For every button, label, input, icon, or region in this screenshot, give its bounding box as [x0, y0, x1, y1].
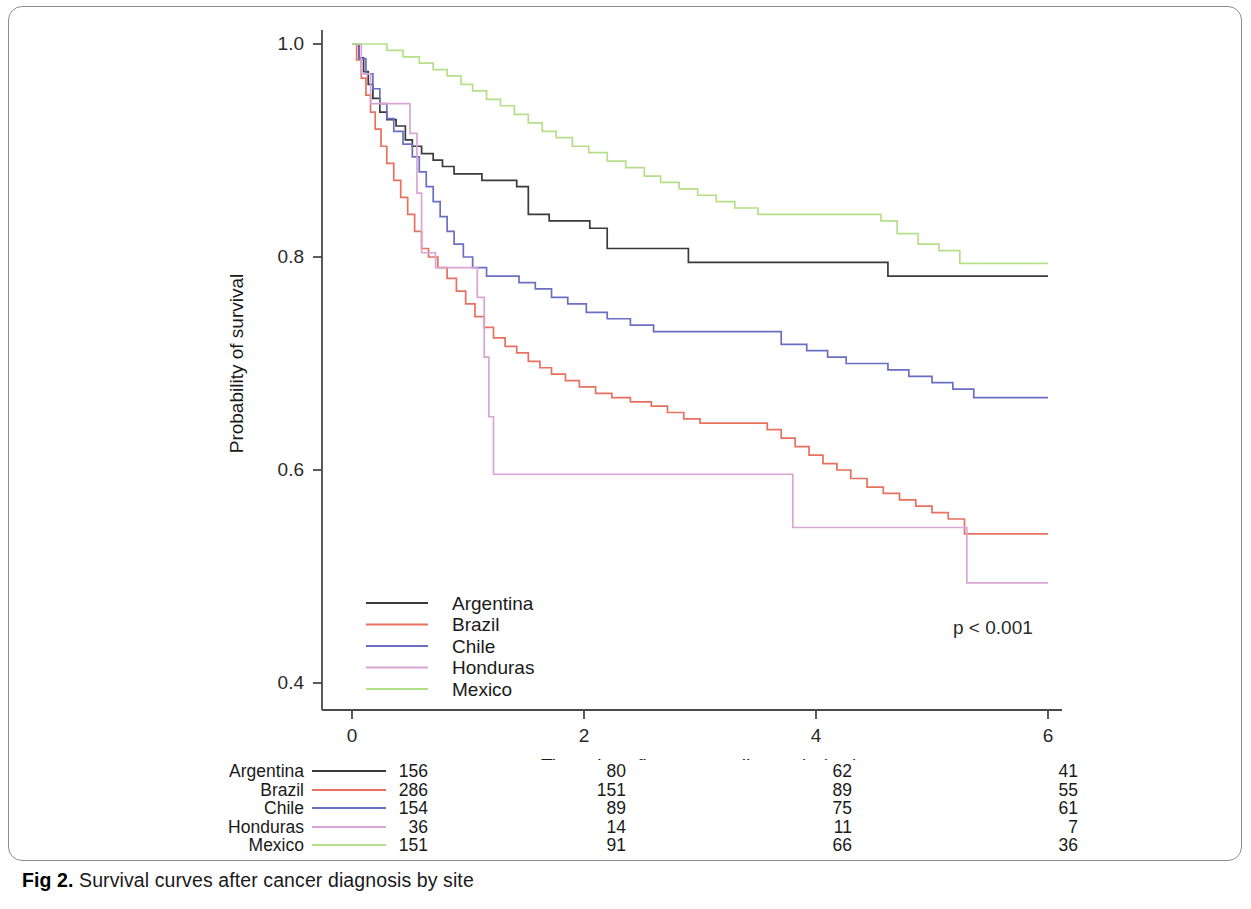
risk-count-cell: 89: [570, 799, 626, 817]
y-axis-tick-label: 0.6: [278, 459, 304, 480]
risk-row-label: Honduras: [182, 818, 304, 836]
survival-curve-chile: [352, 44, 1048, 398]
risk-count-cell: 36: [1022, 836, 1078, 854]
chart-legend: ArgentinaBrazilChileHondurasMexico: [366, 593, 534, 700]
km-chart-svg: 0.40.60.81.00246Time since first cancer …: [0, 0, 1251, 760]
survival-plot: 0.40.60.81.00246Time since first cancer …: [0, 0, 1251, 760]
risk-table-row: Mexico151916636: [0, 836, 1251, 854]
survival-curve-brazil: [352, 44, 1048, 534]
caption-label: Fig 2.: [22, 869, 74, 891]
y-axis-tick-label: 0.4: [278, 672, 305, 693]
pvalue-annotation: p < 0.001: [953, 617, 1033, 638]
survival-curve-mexico: [352, 44, 1048, 263]
survival-curve-argentina: [352, 44, 1048, 276]
risk-count-cell: 55: [1022, 781, 1078, 799]
p-value-label: p < 0.001: [953, 617, 1033, 638]
x-axis-tick-label: 4: [811, 725, 822, 746]
risk-count-cell: 61: [1022, 799, 1078, 817]
x-axis-tick-label: 2: [579, 725, 590, 746]
risk-count-cell: 75: [796, 799, 852, 817]
risk-count-cell: 14: [570, 818, 626, 836]
survival-curves: [352, 44, 1048, 583]
legend-label-chile: Chile: [452, 636, 495, 657]
risk-count-cell: 89: [796, 781, 852, 799]
caption-text: Survival curves after cancer diagnosis b…: [79, 869, 474, 891]
legend-label-mexico: Mexico: [452, 679, 512, 700]
risk-count-cell: 156: [372, 762, 428, 780]
survival-curve-honduras: [352, 44, 1048, 583]
risk-table-row: Argentina156806241: [0, 762, 1251, 780]
risk-count-cell: 151: [372, 836, 428, 854]
risk-row-label: Chile: [182, 799, 304, 817]
x-axis-title: Time since first cancer diagnosis (yrs): [541, 755, 859, 760]
risk-count-cell: 286: [372, 781, 428, 799]
numbers-at-risk-table: Argentina156806241Brazil2861518955Chile1…: [0, 762, 1251, 854]
risk-row-label: Brazil: [182, 781, 304, 799]
legend-label-argentina: Argentina: [452, 593, 534, 614]
risk-count-cell: 154: [372, 799, 428, 817]
risk-count-cell: 80: [570, 762, 626, 780]
y-axis-tick-label: 0.8: [278, 246, 304, 267]
risk-count-cell: 41: [1022, 762, 1078, 780]
risk-row-label: Argentina: [182, 762, 304, 780]
risk-count-cell: 7: [1022, 818, 1078, 836]
risk-count-cell: 62: [796, 762, 852, 780]
risk-count-cell: 36: [372, 818, 428, 836]
figure-caption: Fig 2. Survival curves after cancer diag…: [22, 869, 474, 892]
legend-label-honduras: Honduras: [452, 657, 534, 678]
risk-count-cell: 66: [796, 836, 852, 854]
risk-row-label: Mexico: [182, 836, 304, 854]
y-axis-tick-label: 1.0: [278, 33, 304, 54]
x-axis-tick-label: 0: [347, 725, 358, 746]
risk-table-row: Brazil2861518955: [0, 781, 1251, 799]
legend-label-brazil: Brazil: [452, 614, 500, 635]
x-axis-tick-label: 6: [1043, 725, 1054, 746]
y-axis-title: Probability of survival: [226, 274, 247, 454]
risk-table-row: Honduras3614117: [0, 818, 1251, 836]
chart-axes: 0.40.60.81.00246Time since first cancer …: [226, 30, 1062, 760]
risk-count-cell: 151: [570, 781, 626, 799]
risk-count-cell: 91: [570, 836, 626, 854]
risk-count-cell: 11: [796, 818, 852, 836]
risk-table-row: Chile154897561: [0, 799, 1251, 817]
